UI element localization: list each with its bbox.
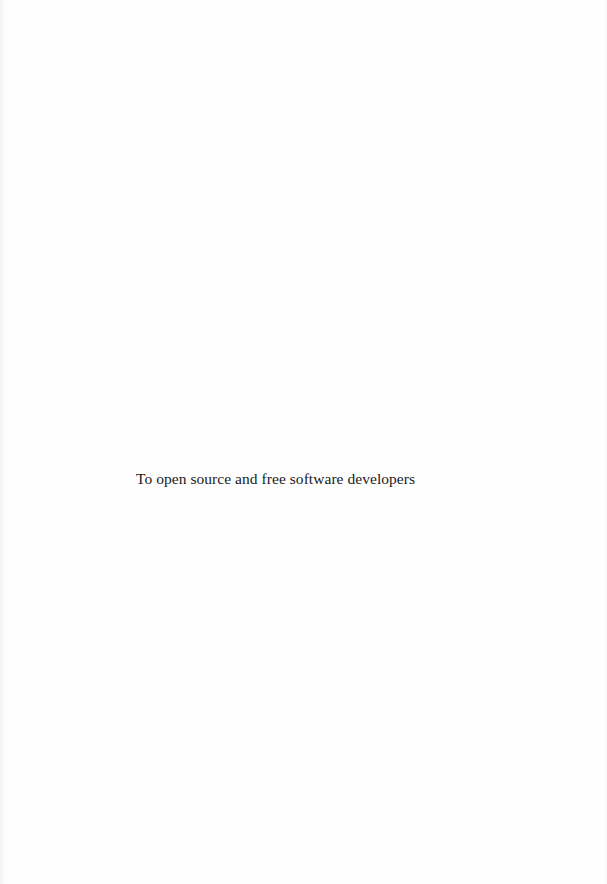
dedication-text: To open source and free software develop… <box>136 469 415 489</box>
page-binding-edge <box>0 0 6 884</box>
document-page: To open source and free software develop… <box>0 0 607 884</box>
